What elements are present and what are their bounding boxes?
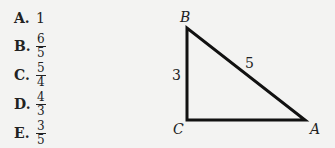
vertex-label-c: C bbox=[173, 121, 184, 137]
vertex-label-b: B bbox=[179, 9, 190, 25]
side-label-bc: 3 bbox=[172, 67, 181, 83]
triangle-abc bbox=[187, 28, 305, 120]
side-label-ab: 5 bbox=[245, 55, 254, 71]
vertex-label-a: A bbox=[308, 121, 320, 137]
triangle-diagram: B C A 3 5 bbox=[0, 0, 335, 148]
